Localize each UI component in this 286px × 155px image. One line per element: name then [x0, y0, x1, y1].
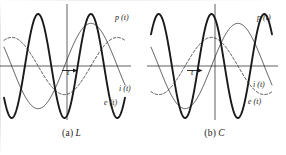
- curve-label-p: p (t): [257, 13, 271, 22]
- axis-label-time: t: [67, 68, 69, 77]
- curve-label-i: i (t): [253, 80, 265, 89]
- curve-label-e: e (t): [104, 98, 117, 107]
- waveform-figure: p (t) i (t) e (t) t (a)L p (t) i (t) e (…: [0, 0, 286, 155]
- axis-label-time: t: [191, 68, 193, 77]
- caption-symbol: L: [73, 128, 81, 138]
- curve-label-p: p (t): [115, 13, 129, 22]
- panel-caption-b: (b)C: [143, 128, 286, 138]
- panel-capacitor: p (t) i (t) e (t) t (b)C: [143, 0, 286, 155]
- curve-label-e: e (t): [248, 97, 261, 106]
- panel-inductor: p (t) i (t) e (t) t (a)L: [0, 0, 143, 155]
- panel-caption-a: (a)L: [0, 128, 143, 138]
- caption-tag: (a): [62, 128, 73, 138]
- caption-tag: (b): [204, 128, 216, 138]
- caption-symbol: C: [216, 128, 225, 138]
- curve-label-i: i (t): [119, 84, 131, 93]
